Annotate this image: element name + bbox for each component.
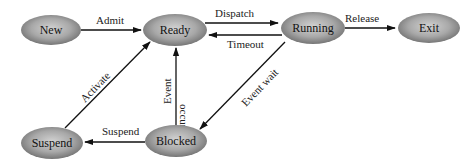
node-running: Running bbox=[281, 12, 345, 44]
node-label-new: New bbox=[40, 23, 63, 37]
edge-label-timeout: Timeout bbox=[227, 38, 264, 50]
node-new: New bbox=[21, 15, 81, 45]
edge-label-event-occurs-line1: Event bbox=[161, 78, 173, 104]
edges: Admit Dispatch Timeout Release Event wai… bbox=[65, 7, 395, 142]
edge-activate bbox=[65, 42, 150, 128]
edge-label-release: Release bbox=[345, 12, 379, 24]
edge-label-dispatch: Dispatch bbox=[215, 7, 255, 19]
node-label-suspend: Suspend bbox=[32, 136, 73, 150]
node-exit: Exit bbox=[398, 13, 460, 43]
edge-label-suspend: Suspend bbox=[102, 125, 140, 137]
node-ready: Ready bbox=[143, 14, 207, 46]
process-state-diagram: Admit Dispatch Timeout Release Event wai… bbox=[0, 0, 475, 167]
edge-event-wait bbox=[200, 42, 285, 129]
node-label-ready: Ready bbox=[160, 23, 191, 37]
node-suspend: Suspend bbox=[21, 127, 83, 159]
node-label-exit: Exit bbox=[419, 21, 440, 35]
edge-label-event-wait: Event wait bbox=[239, 66, 281, 108]
node-label-running: Running bbox=[292, 21, 333, 35]
edge-label-admit: Admit bbox=[96, 14, 124, 26]
node-blocked: Blocked bbox=[145, 125, 207, 157]
edge-label-activate: Activate bbox=[78, 69, 113, 104]
node-label-blocked: Blocked bbox=[156, 134, 196, 148]
